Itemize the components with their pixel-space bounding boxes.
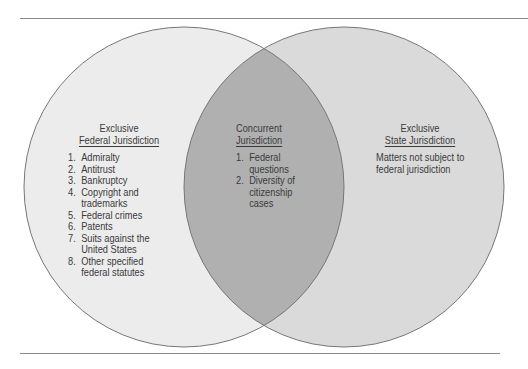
item-text: Admiralty: [81, 152, 120, 164]
federal-list: 1.Admiralty 2.Antitrust 3.Bankruptcy 4.C…: [68, 152, 188, 279]
state-title: Exclusive State Jurisdiction: [376, 123, 464, 146]
item-text: Federal questions: [249, 152, 302, 175]
item-text: Bankruptcy: [81, 175, 127, 187]
federal-title-line1: Exclusive: [68, 123, 170, 135]
item-text: Diversity of citizenship cases: [249, 175, 305, 210]
concurrent-title-line2: Jurisdiction: [236, 135, 306, 147]
list-item: 2.Diversity of citizenship cases: [236, 175, 306, 210]
list-item: 8.Other specified federal statutes: [68, 256, 188, 279]
item-text: Patents: [81, 221, 112, 233]
item-number: 7.: [68, 233, 81, 256]
list-item: 6.Patents: [68, 221, 188, 233]
state-title-line2: State Jurisdiction: [376, 135, 464, 147]
state-jurisdiction-block: Exclusive State Jurisdiction Matters not…: [376, 123, 482, 175]
item-number: 3.: [68, 175, 81, 187]
concurrent-title-line1: Concurrent: [236, 123, 306, 135]
list-item: 7.Suits against the United States: [68, 233, 188, 256]
concurrent-jurisdiction-block: Concurrent Jurisdiction 1.Federal questi…: [236, 123, 306, 210]
concurrent-title: Concurrent Jurisdiction: [236, 123, 306, 146]
item-number: 1.: [68, 152, 81, 164]
item-number: 4.: [68, 187, 81, 210]
item-text: Other specified federal statutes: [81, 256, 162, 279]
federal-title: Exclusive Federal Jurisdiction: [68, 123, 170, 146]
item-number: 1.: [236, 152, 249, 175]
concurrent-list: 1.Federal questions 2.Diversity of citiz…: [236, 152, 306, 210]
state-title-line1: Exclusive: [376, 123, 464, 135]
list-item: 1.Admiralty: [68, 152, 188, 164]
state-description: Matters not subject to federal jurisdict…: [376, 152, 475, 175]
item-number: 8.: [68, 256, 81, 279]
item-number: 2.: [236, 175, 249, 210]
list-item: 3.Bankruptcy: [68, 175, 188, 187]
item-number: 6.: [68, 221, 81, 233]
list-item: 4.Copyright and trademarks: [68, 187, 188, 210]
federal-jurisdiction-block: Exclusive Federal Jurisdiction 1.Admiral…: [68, 123, 188, 279]
item-text: Suits against the United States: [81, 233, 162, 256]
item-text: Copyright and trademarks: [81, 187, 151, 210]
list-item: 1.Federal questions: [236, 152, 306, 175]
federal-title-line2: Federal Jurisdiction: [68, 135, 170, 147]
